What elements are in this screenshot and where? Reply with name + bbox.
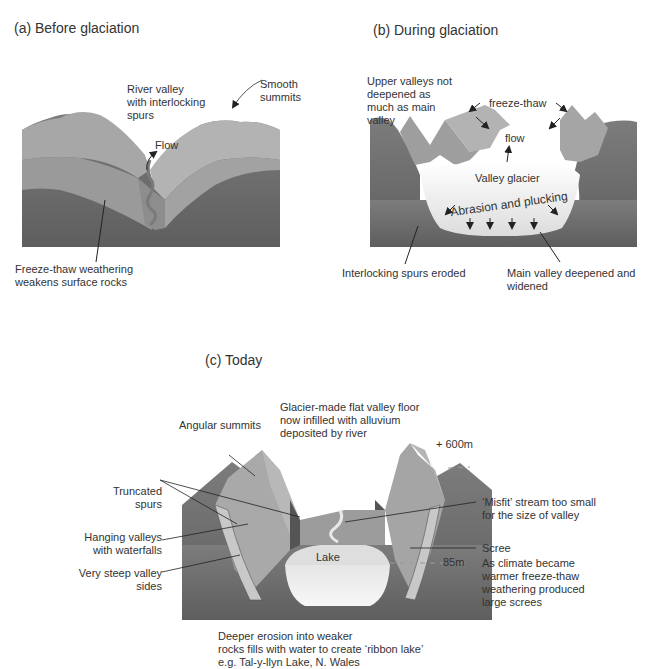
label-spurs-eroded: Interlocking spurs eroded xyxy=(342,267,466,280)
label-ribbon-lake: Deeper erosion into weaker rocks fills w… xyxy=(218,630,423,669)
label-angular-summits: Angular summits xyxy=(179,419,261,432)
label-truncated-spurs: Truncated spurs xyxy=(113,485,162,511)
label-lake: Lake xyxy=(316,551,340,564)
panel-b-title: (b) During glaciation xyxy=(373,22,498,38)
label-river-valley: River valley with interlocking spurs xyxy=(127,83,205,122)
label-height-600m: + 600m xyxy=(436,438,473,451)
label-steep-sides: Very steep valley sides xyxy=(79,567,162,593)
label-flow-b: flow xyxy=(505,132,525,145)
label-scree: Scree xyxy=(482,542,511,555)
label-freeze-thaw-weathering: Freeze-thaw weathering weakens surface r… xyxy=(15,263,133,289)
panel-a-title: (a) Before glaciation xyxy=(14,20,139,36)
panel-c-art xyxy=(160,443,492,620)
label-smooth-summits: Smooth summits xyxy=(260,78,301,104)
label-main-valley: Main valley deepened and widened xyxy=(507,267,635,293)
label-flow-a: Flow xyxy=(155,139,178,152)
panel-c-title: (c) Today xyxy=(205,352,262,368)
label-upper-valleys: Upper valleys not deepened as much as ma… xyxy=(367,75,452,127)
label-misfit-stream: ‘Misfit’ stream too small for the size o… xyxy=(482,496,596,522)
label-freeze-thaw-b: freeze-thaw xyxy=(489,97,546,110)
label-valley-floor: Glacier-made flat valley floor now infil… xyxy=(280,401,419,440)
label-valley-glacier: Valley glacier xyxy=(475,172,540,185)
label-scree-note: As climate became warmer freeze-thaw wea… xyxy=(482,557,585,609)
label-height-85m: 85m xyxy=(443,556,464,569)
label-hanging-valleys: Hanging valleys with waterfalls xyxy=(84,531,162,557)
